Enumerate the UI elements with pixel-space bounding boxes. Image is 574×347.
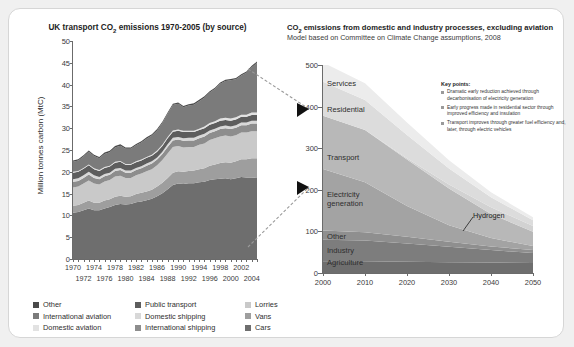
left-x-tick-label: 1990 [170,263,186,272]
right-x-tick-mark [533,273,534,276]
left-x-tick-label: 1998 [212,263,228,272]
legend-label: Other [43,300,61,309]
legend-item[interactable]: Public transport [135,300,245,309]
left-x-tick-label: 1994 [191,263,207,272]
legend-item[interactable]: Other [33,300,135,309]
left-y-tick-label: 20 [62,167,70,176]
band-label-residential: Residential [327,105,365,114]
legend-swatch [245,325,251,331]
legend-label: Domestic aviation [43,323,101,332]
legend-label: Lorries [255,300,278,309]
legend-label: Vans [255,312,271,321]
left-x-tick-label: 1984 [139,274,155,283]
left-y-tick-label: 45 [62,58,70,67]
left-x-tick-label: 2004 [244,274,260,283]
left-x-tick-label: 1976 [97,274,113,283]
legend-label: International aviation [43,312,111,321]
left-chart: UK transport CO2 emissions 1970-2005 (by… [21,21,274,291]
key-points-list: Dramatic early reduction achieved throug… [441,89,567,134]
left-y-tick-label: 50 [62,37,70,46]
left-title-pre: UK transport CO [48,23,113,32]
legend-label: Domestic shipping [145,312,205,321]
legend-row: Domestic aviationInternational shippingC… [33,322,295,334]
left-x-tick-label: 1978 [107,263,123,272]
left-x-tick-label: 1988 [160,274,176,283]
left-y-tick-label: 40 [62,80,70,89]
key-point-item: Transport improves through greater fuel … [441,120,567,133]
key-points-box: Key points: Dramatic early reduction ach… [441,81,567,136]
legend-swatch [135,325,141,331]
legend-swatch [33,302,39,308]
left-chart-legend: OtherPublic transportLorriesInternationa… [33,299,295,334]
legend-label: Cars [255,323,271,332]
right-y-tick-label: 500 [305,61,318,70]
key-point-text: Dramatic early reduction achieved throug… [447,89,567,102]
right-x-tick-label: 2040 [483,278,499,287]
left-x-tick-label: 1980 [118,274,134,283]
bullet-icon [441,91,444,94]
legend-label: Public transport [145,300,196,309]
legend-swatch [245,313,251,319]
right-x-tick-label: 2020 [399,278,415,287]
left-x-tick-mark [257,259,258,262]
left-x-tick-label: 1982 [128,263,144,272]
left-x-tick-label: 2000 [223,274,239,283]
hydrogen-annotation: Hydrogen [473,211,505,220]
left-x-tick-label: 1996 [202,274,218,283]
bullet-icon [441,122,444,125]
left-chart-title: UK transport CO2 emissions 1970-2005 (by… [21,23,274,34]
legend-swatch [135,302,141,308]
key-point-text: Transport improves through greater fuel … [447,120,567,133]
left-y-tick-label: 10 [62,211,70,220]
left-y-tick-label: 30 [62,124,70,133]
legend-swatch [135,313,141,319]
bullet-icon [441,106,444,109]
left-title-post: emissions 1970-2005 (by source) [116,23,246,32]
right-y-axis-line [322,65,323,274]
left-x-axis-line [72,259,257,260]
band-label-transport: Transport [327,153,359,162]
right-y-tick-label: 300 [305,144,318,153]
legend-item[interactable]: Domestic aviation [33,323,135,332]
legend-item[interactable]: Domestic shipping [135,312,245,321]
legend-item[interactable]: International aviation [33,312,135,321]
legend-label: International shipping [145,323,215,332]
right-y-tick-label: 100 [305,227,318,236]
right-x-axis-line [322,273,533,274]
legend-swatch [33,313,39,319]
left-area-series-group [73,61,257,259]
left-x-tick-label: 1992 [181,274,197,283]
figure-card: UK transport CO2 emissions 1970-2005 (by… [8,8,564,338]
band-label-electricity-generation: Electricitygeneration [327,191,363,208]
legend-swatch [245,302,251,308]
legend-item[interactable]: International shipping [135,323,245,332]
right-x-tick-label: 2010 [357,278,373,287]
right-x-tick-label: 2030 [441,278,457,287]
left-y-tick-label: 35 [62,102,70,111]
right-y-tick-label: 400 [305,102,318,111]
band-label-agriculture: Agriculture [327,258,363,267]
right-x-tick-label: 2050 [525,278,541,287]
band-label-services: Services [327,79,356,88]
right-chart-subtitle: Model based on Committee on Climate Chan… [287,33,501,42]
key-point-text: Early progress made in residential secto… [447,105,567,118]
legend-row: OtherPublic transportLorries [33,299,295,311]
left-x-tick-label: 1970 [65,263,81,272]
legend-swatch [33,325,39,331]
legend-row: International aviationDomestic shippingV… [33,311,295,323]
left-y-tick-label: 25 [62,146,70,155]
key-points-title: Key points: [441,81,567,87]
band-label-industry: Industry [327,246,354,255]
right-title-pre: CO [287,23,298,32]
left-stacked-area-svg [73,41,257,259]
legend-item[interactable]: Cars [245,323,295,332]
right-chart: CO2 emissions from domestic and industry… [287,21,557,321]
right-plot-area: 0100200300400500 20002010202020302040205… [323,65,533,273]
left-y-axis-line [72,41,73,260]
left-y-tick-label: 15 [62,189,70,198]
right-y-tick-label: 200 [305,185,318,194]
left-plot-area: 05101520253035404550 1970197419781982198… [73,41,257,259]
key-point-item: Early progress made in residential secto… [441,105,567,118]
key-point-item: Dramatic early reduction achieved throug… [441,89,567,102]
left-x-tick-label: 1986 [149,263,165,272]
